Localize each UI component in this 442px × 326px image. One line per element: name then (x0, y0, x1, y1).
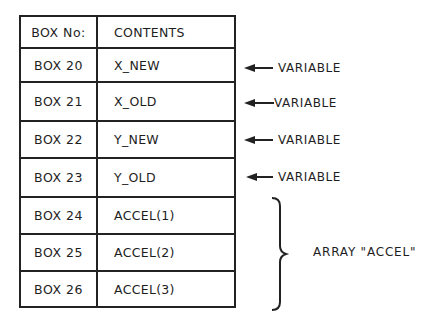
table-row: BOX 25 ACCEL(2) (21, 233, 234, 270)
header-contents: CONTENTS (98, 17, 234, 47)
box-number-cell: BOX 21 (21, 83, 98, 120)
table-row: BOX 26 ACCEL(3) (21, 270, 234, 306)
variable-annotation: VARIABLE (244, 61, 341, 75)
array-accel-label: ARRAY "ACCEL" (313, 245, 416, 259)
variable-label: VARIABLE (278, 133, 341, 147)
table-row: BOX 23 Y_OLD (21, 157, 234, 196)
contents-cell: ACCEL(2) (98, 235, 234, 270)
table-row: BOX 22 Y_NEW (21, 120, 234, 157)
right-brace-icon (268, 196, 292, 312)
left-arrow-icon (244, 98, 274, 108)
box-number-cell: BOX 20 (21, 49, 98, 81)
contents-cell: X_OLD (98, 83, 234, 120)
memory-box-table: BOX No: CONTENTS BOX 20 X_NEW BOX 21 X_O… (19, 15, 236, 308)
box-number-cell: BOX 22 (21, 122, 98, 157)
variable-annotation: VARIABLE (244, 170, 341, 184)
box-number-cell: BOX 25 (21, 235, 98, 270)
variable-annotation: VARIABLE (244, 133, 341, 147)
box-number-cell: BOX 26 (21, 272, 98, 306)
table-row: BOX 24 ACCEL(1) (21, 196, 234, 233)
contents-cell: Y_NEW (98, 122, 234, 157)
variable-label: VARIABLE (278, 61, 341, 75)
contents-cell: Y_OLD (98, 159, 234, 196)
header-box-number: BOX No: (21, 17, 98, 47)
contents-cell: ACCEL(3) (98, 272, 234, 306)
left-arrow-icon (244, 135, 274, 145)
box-number-cell: BOX 23 (21, 159, 98, 196)
table-row: BOX 21 X_OLD (21, 81, 234, 120)
contents-cell: X_NEW (98, 49, 234, 81)
left-arrow-icon (244, 172, 274, 182)
variable-label: VARIABLE (274, 96, 337, 110)
table-header-row: BOX No: CONTENTS (21, 17, 234, 47)
variable-label: VARIABLE (278, 170, 341, 184)
left-arrow-icon (244, 63, 274, 73)
table-row: BOX 20 X_NEW (21, 47, 234, 81)
contents-cell: ACCEL(1) (98, 198, 234, 233)
variable-annotation: VARIABLE (244, 96, 337, 110)
box-number-cell: BOX 24 (21, 198, 98, 233)
